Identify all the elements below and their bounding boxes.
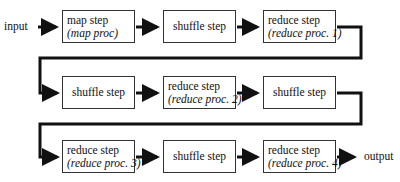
reduce-step-4-box: reduce step (reduce proc. 4): [263, 140, 336, 173]
box-title: shuffle step: [72, 86, 125, 99]
box-title: reduce step: [168, 80, 235, 93]
box-title: map step: [67, 14, 134, 27]
shuffle-step-box: shuffle step: [62, 76, 135, 109]
input-label: input: [4, 20, 28, 33]
reduce-step-2-box: reduce step (reduce proc. 2): [163, 76, 236, 109]
box-subtitle: (reduce proc. 2): [168, 93, 235, 106]
reduce-step-3-box: reduce step (reduce proc. 3): [62, 140, 135, 173]
shuffle-step-box: shuffle step: [163, 10, 236, 43]
shuffle-step-box: shuffle step: [163, 140, 236, 173]
box-title: reduce step: [268, 144, 335, 157]
output-label: output: [364, 150, 393, 163]
box-title: shuffle step: [273, 86, 326, 99]
shuffle-step-box: shuffle step: [263, 76, 336, 109]
box-subtitle: (map proc): [67, 27, 134, 40]
box-subtitle: (reduce proc. 4): [268, 157, 335, 170]
box-title: reduce step: [67, 144, 134, 157]
box-subtitle: (reduce proc. 1): [268, 27, 335, 40]
reduce-step-1-box: reduce step (reduce proc. 1): [263, 10, 336, 43]
box-title: shuffle step: [173, 150, 226, 163]
map-step-box: map step (map proc): [62, 10, 135, 43]
box-title: reduce step: [268, 14, 335, 27]
box-title: shuffle step: [173, 20, 226, 33]
box-subtitle: (reduce proc. 3): [67, 157, 134, 170]
